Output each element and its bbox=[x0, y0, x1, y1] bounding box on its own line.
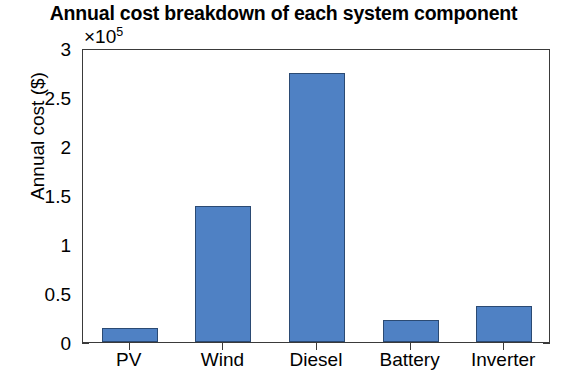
x-tick-label-inverter: Inverter bbox=[471, 350, 535, 369]
y-tick-label: 0.5 bbox=[45, 285, 71, 304]
x-tick-label-wind: Wind bbox=[201, 350, 244, 369]
y-axis-title: Annual cost ($) bbox=[27, 26, 49, 246]
x-tick-label-pv: PV bbox=[116, 350, 141, 369]
y-axis-exponent-base: ×10 bbox=[84, 26, 116, 47]
x-tick-label-battery: Battery bbox=[379, 350, 439, 369]
y-tick-label: 0 bbox=[60, 334, 71, 353]
chart-title: Annual cost breakdown of each system com… bbox=[0, 2, 567, 25]
bar-chart-figure: Annual cost breakdown of each system com… bbox=[0, 0, 567, 384]
y-tick-mark bbox=[82, 343, 89, 344]
bar-wind bbox=[195, 206, 251, 342]
bar-battery bbox=[383, 320, 439, 342]
y-tick-label: 3 bbox=[60, 40, 71, 59]
bar-pv bbox=[102, 328, 158, 342]
y-axis-exponent-power: 5 bbox=[116, 25, 123, 39]
plot-area bbox=[82, 49, 550, 343]
bar-inverter bbox=[476, 306, 532, 342]
x-tick-label-diesel: Diesel bbox=[290, 350, 343, 369]
y-axis-exponent-label: ×105 bbox=[84, 26, 123, 46]
y-tick-label: 2.5 bbox=[45, 89, 71, 108]
y-tick-label: 1 bbox=[60, 236, 71, 255]
bar-series bbox=[83, 50, 549, 342]
y-tick-mark-right bbox=[543, 343, 550, 344]
y-tick-label: 2 bbox=[60, 138, 71, 157]
bar-diesel bbox=[289, 73, 345, 342]
y-tick-label: 1.5 bbox=[45, 187, 71, 206]
